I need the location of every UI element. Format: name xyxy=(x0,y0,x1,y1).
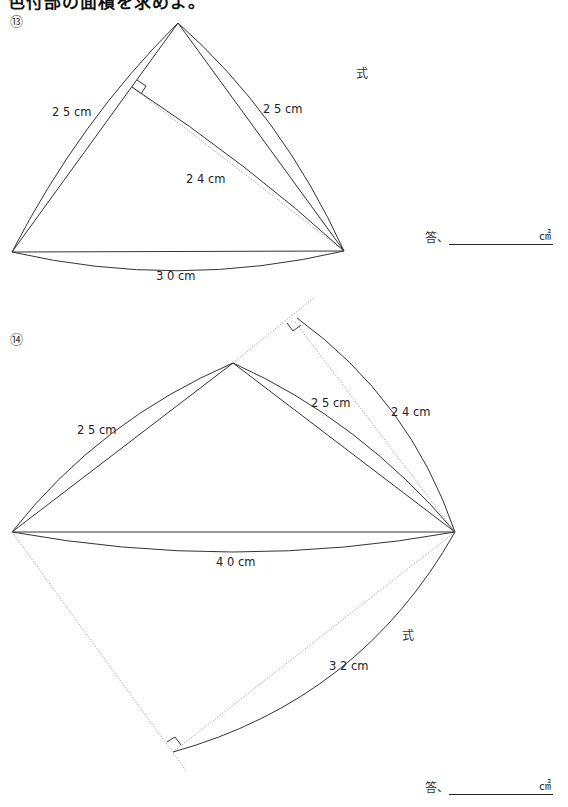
fig13-arc-base xyxy=(12,251,344,271)
geometry-figures xyxy=(0,0,568,807)
fig14-upper-right-angle-mark xyxy=(287,323,301,331)
fig14-label-left-side: 2 5 cm xyxy=(77,423,116,437)
problem-14-answer-prefix: 答、 xyxy=(425,778,449,795)
problem-13-answer-field[interactable]: ㎠ xyxy=(449,228,553,245)
figure-13 xyxy=(12,23,344,271)
fig14-label-lower-height: 3 2 cm xyxy=(329,659,368,673)
fig14-triangle xyxy=(12,363,455,532)
fig13-label-left-side: 2 5 cm xyxy=(52,105,91,119)
problem-13-answer-unit: ㎠ xyxy=(539,229,551,243)
problem-14-formula-label: 式 xyxy=(402,626,414,643)
problem-13-formula-label: 式 xyxy=(356,64,368,81)
fig14-lower-side-guide xyxy=(12,532,187,772)
fig14-lower-right-angle-mark xyxy=(167,737,181,745)
fig13-triangle xyxy=(12,23,344,252)
fig14-upper-height-guide xyxy=(295,322,455,532)
problem-14-number: ⑭ xyxy=(10,329,23,348)
fig14-upper-extension-guide xyxy=(233,297,315,363)
fig13-label-right-side: 2 5 cm xyxy=(263,102,302,116)
fig13-label-height: 2 4 cm xyxy=(186,172,225,186)
fig13-label-base: 3 0 cm xyxy=(156,269,195,283)
problem-13-answer-prefix: 答、 xyxy=(425,228,449,245)
problem-14-answer-unit: ㎠ xyxy=(539,779,551,793)
fig13-right-angle-mark xyxy=(137,80,146,94)
problem-13-answer: 答、 ㎠ xyxy=(425,228,553,245)
problem-14-answer-field[interactable]: ㎠ xyxy=(449,778,553,795)
fig13-height-guide xyxy=(132,87,344,251)
problem-14-answer: 答、 ㎠ xyxy=(425,778,553,795)
fig14-label-right-side: 2 5 cm xyxy=(311,396,350,410)
fig14-label-base: 4 0 cm xyxy=(216,555,255,569)
fig14-label-upper-height: 2 4 cm xyxy=(391,405,430,419)
fig14-arc-upper-height xyxy=(297,318,455,532)
figure-14 xyxy=(12,297,455,772)
fig14-arc-base xyxy=(12,532,455,552)
